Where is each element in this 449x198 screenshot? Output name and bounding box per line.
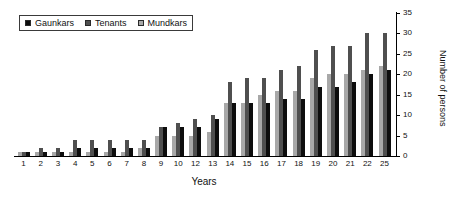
bar-gaunkars	[301, 99, 305, 156]
bar-group	[342, 13, 359, 156]
bar-group	[135, 13, 152, 156]
bar-gaunkars	[215, 119, 219, 156]
y-axis-tick-label: 5	[403, 132, 407, 140]
bar-group	[187, 13, 204, 156]
x-axis-tick-label: 8	[135, 159, 152, 171]
bar-gaunkars	[94, 148, 98, 156]
x-axis-tick-label: 22	[359, 159, 376, 171]
x-axis-tick-label: 18	[290, 159, 307, 171]
x-axis-tick-label: 3	[49, 159, 66, 171]
y-axis-tick-label: 25	[403, 50, 412, 58]
bar-gaunkars	[249, 103, 253, 156]
plot-area	[14, 13, 394, 156]
x-axis-title: Years	[14, 176, 394, 187]
y-axis-tick	[396, 54, 400, 55]
x-axis-tick-label: 21	[342, 159, 359, 171]
bar-groups	[14, 13, 394, 156]
x-axis-tick-label: 2	[32, 159, 49, 171]
bar-group	[67, 13, 84, 156]
bar-gaunkars	[77, 148, 81, 156]
bar-gaunkars	[369, 74, 373, 156]
bar-group	[84, 13, 101, 156]
bar-gaunkars	[129, 148, 133, 156]
bar-group	[221, 13, 238, 156]
chart-legend: Gaunkars Tenants Mundkars	[19, 15, 193, 31]
x-axis-tick-label: 19	[307, 159, 324, 171]
x-axis-tick-label: 5	[84, 159, 101, 171]
bar-gaunkars	[283, 99, 287, 156]
x-axis-tick-label: 13	[204, 159, 221, 171]
y-axis-tick	[396, 95, 400, 96]
bar-gaunkars	[266, 103, 270, 156]
bar-gaunkars	[180, 127, 184, 156]
x-axis-tick-label: 7	[118, 159, 135, 171]
x-axis-tick-label: 9	[153, 159, 170, 171]
bar-group	[376, 13, 393, 156]
bar-group	[359, 13, 376, 156]
bar-gaunkars	[163, 127, 167, 156]
x-axis-tick-label: 16	[256, 159, 273, 171]
legend-swatch-mundkars	[138, 20, 144, 26]
bar-gaunkars	[335, 87, 339, 156]
bar-gaunkars	[146, 148, 150, 156]
x-axis-tick-label: 10	[170, 159, 187, 171]
y-axis-tick	[396, 13, 400, 14]
bar-gaunkars	[112, 148, 116, 156]
y-axis-tick-label: 35	[403, 9, 412, 17]
bar-group	[256, 13, 273, 156]
x-axis-line	[14, 156, 396, 157]
legend-swatch-gaunkars	[25, 20, 31, 26]
legend-swatch-tenants	[85, 20, 91, 26]
x-axis-tick-label: 17	[273, 159, 290, 171]
y-axis-tick-label: 0	[403, 152, 407, 160]
bar-group	[118, 13, 135, 156]
bar-group	[204, 13, 221, 156]
bar-gaunkars	[318, 87, 322, 156]
legend-item-mundkars: Mundkars	[138, 18, 188, 28]
x-axis-tick-label: 4	[67, 159, 84, 171]
y-axis-tick-label: 30	[403, 29, 412, 37]
x-axis-tick-label: 12	[187, 159, 204, 171]
bar-group	[238, 13, 255, 156]
bar-group	[153, 13, 170, 156]
bar-chart-figure: Gaunkars Tenants Mundkars 05101520253035…	[0, 0, 449, 198]
bar-group	[307, 13, 324, 156]
y-axis-tick-label: 15	[403, 91, 412, 99]
bar-gaunkars	[232, 103, 236, 156]
legend-item-tenants: Tenants	[85, 18, 127, 28]
y-axis-tick-label: 10	[403, 111, 412, 119]
bar-group	[49, 13, 66, 156]
x-axis-tick-label: 14	[221, 159, 238, 171]
y-axis-title: Number of persons	[438, 50, 448, 127]
bar-group	[15, 13, 32, 156]
bar-gaunkars	[197, 127, 201, 156]
bar-group	[170, 13, 187, 156]
y-axis-tick	[396, 115, 400, 116]
y-axis-tick	[396, 156, 400, 157]
x-axis-tick-label: 15	[238, 159, 255, 171]
bar-group	[324, 13, 341, 156]
bar-group	[101, 13, 118, 156]
y-axis-tick	[396, 74, 400, 75]
bar-gaunkars	[352, 82, 356, 156]
bar-gaunkars	[387, 70, 391, 156]
legend-label-gaunkars: Gaunkars	[35, 18, 74, 28]
legend-label-tenants: Tenants	[95, 18, 127, 28]
y-axis-tick-label: 20	[403, 70, 412, 78]
x-axis-tick-label: 25	[376, 159, 393, 171]
x-axis-tick-label: 1	[15, 159, 32, 171]
x-axis-tick-label: 20	[324, 159, 341, 171]
y-axis-tick	[396, 136, 400, 137]
legend-label-mundkars: Mundkars	[148, 18, 188, 28]
y-axis-tick	[396, 33, 400, 34]
bar-group	[290, 13, 307, 156]
x-axis-tick-labels: 12345678910121314151617181920212225	[14, 159, 394, 171]
legend-item-gaunkars: Gaunkars	[25, 18, 74, 28]
bar-group	[32, 13, 49, 156]
bar-group	[273, 13, 290, 156]
x-axis-tick-label: 6	[101, 159, 118, 171]
